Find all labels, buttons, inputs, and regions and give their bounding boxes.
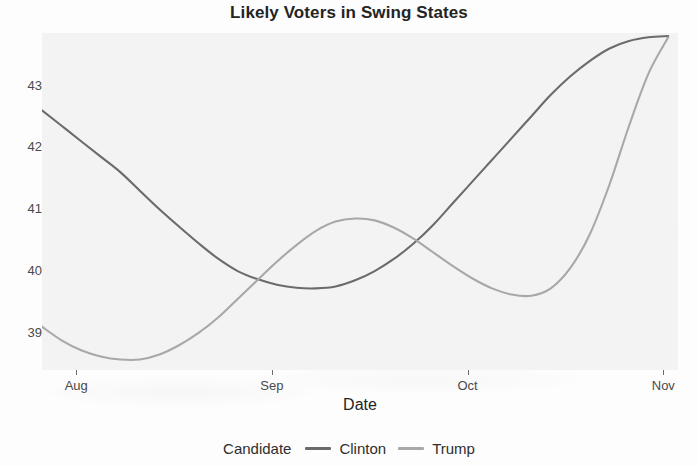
legend-title: Candidate <box>223 440 291 457</box>
y-tick-label: 43 <box>8 78 42 93</box>
plot-svg <box>42 33 678 370</box>
series-layer <box>42 36 668 360</box>
y-tick-label: 41 <box>8 201 42 216</box>
legend-label: Trump <box>432 440 475 457</box>
y-tick-label: 40 <box>8 263 42 278</box>
legend-item-trump[interactable]: Trump <box>398 440 475 457</box>
chart-legend: Candidate ClintonTrump <box>0 440 698 457</box>
x-tick-mark <box>663 370 664 375</box>
legend-swatch-icon <box>398 447 424 450</box>
x-tick-label: Sep <box>242 378 302 393</box>
x-tick-label: Oct <box>438 378 498 393</box>
x-tick-mark <box>468 370 469 375</box>
y-tick-label: 39 <box>8 325 42 340</box>
x-tick-mark <box>272 370 273 375</box>
x-axis-title: Date <box>42 396 678 414</box>
x-tick-label: Aug <box>46 378 106 393</box>
x-tick-label: Nov <box>633 378 693 393</box>
chart-figure: Likely Voters in Swing States 3940414243… <box>0 0 698 466</box>
legend-label: Clinton <box>339 440 386 457</box>
y-tick-label: 42 <box>8 139 42 154</box>
legend-swatch-icon <box>305 447 331 450</box>
legend-item-clinton[interactable]: Clinton <box>305 440 386 457</box>
series-line-clinton <box>42 36 668 288</box>
series-line-trump <box>42 37 668 360</box>
x-tick-mark <box>76 370 77 375</box>
plot-panel <box>42 33 678 370</box>
page-title: Likely Voters in Swing States <box>0 3 698 23</box>
x-axis: AugSepOctNov <box>42 370 678 396</box>
y-axis: 3940414243 <box>0 33 42 370</box>
